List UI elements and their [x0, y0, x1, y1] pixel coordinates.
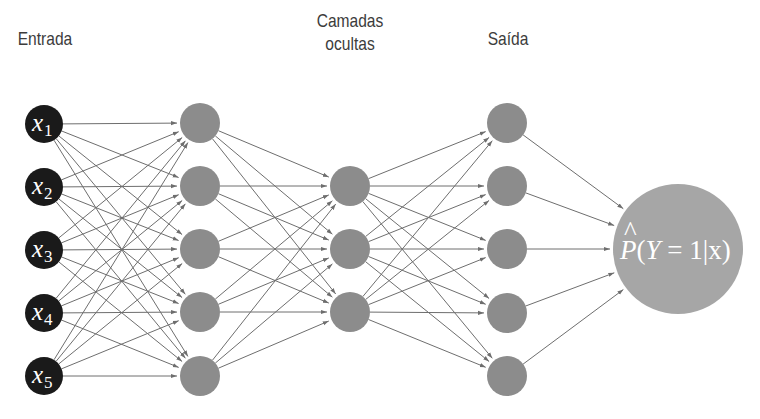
edge-hidden1-to-hidden2 [218, 131, 328, 177]
input-node-x5: x5 [25, 357, 63, 395]
edge-input-to-hidden1 [63, 186, 177, 187]
output-node-3 [487, 229, 527, 269]
edge-hidden2-to-output [369, 132, 486, 179]
input-node-x4: x4 [25, 294, 63, 332]
neural-network-diagram: x1x2x3x4x5^P(Y = 1|x) [0, 0, 760, 419]
edge-hidden2-to-output [363, 141, 493, 297]
output-node-1 [487, 103, 527, 143]
edge-hidden2-to-output [369, 320, 486, 368]
edge-hidden1-to-hidden2 [212, 204, 335, 360]
output-node-5 [487, 356, 527, 396]
edge-input-to-hidden1 [63, 312, 177, 313]
hidden2-node-1 [330, 166, 370, 206]
hidden1-node-2 [180, 166, 220, 206]
hidden2-node-2 [330, 229, 370, 269]
edge-hidden2-to-output [370, 312, 484, 313]
edge-output-to-probability [526, 193, 614, 226]
edge-input-to-hidden1 [56, 204, 185, 361]
input-node-x3: x3 [25, 231, 63, 269]
edge-hidden1-to-hidden2 [215, 136, 332, 234]
hidden1-node-5 [180, 356, 220, 396]
output-node-2 [487, 166, 527, 206]
input-node-x2: x2 [25, 168, 63, 206]
edge-hidden1-to-hidden2 [215, 264, 332, 363]
edge-input-to-hidden1 [62, 320, 179, 367]
input-node-x1: x1 [25, 105, 63, 143]
edge-input-to-hidden1 [59, 138, 183, 239]
probability-formula: P(Y = 1|x) [619, 235, 731, 265]
probability-output-node: ^P(Y = 1|x) [613, 184, 743, 314]
edge-hidden1-to-hidden2 [212, 139, 335, 294]
edge-input-to-hidden1 [62, 258, 179, 306]
hidden2-node-3 [330, 292, 370, 332]
edge-input-to-hidden1 [56, 139, 185, 295]
edge-output-to-probability [523, 290, 623, 365]
edge-input-to-hidden1 [56, 141, 185, 298]
hidden1-node-4 [180, 292, 220, 332]
hidden1-node-1 [180, 103, 220, 143]
edge-hidden1-to-hidden2 [218, 321, 328, 368]
edge-input-to-hidden1 [62, 132, 179, 180]
edge-hidden2-to-output [366, 200, 490, 299]
edge-input-to-hidden1 [63, 249, 177, 250]
edge-hidden2-to-output [363, 201, 493, 358]
edge-hidden2-to-output [366, 137, 490, 236]
edge-hidden2-to-output [366, 262, 490, 362]
hidden1-node-3 [180, 229, 220, 269]
edge-output-to-probability [526, 273, 615, 306]
edge-hidden2-to-output [369, 195, 486, 242]
edge-input-to-hidden1 [62, 195, 179, 243]
edge-input-to-hidden1 [59, 264, 183, 365]
output-node-4 [487, 293, 527, 333]
edge-input-to-hidden1 [63, 123, 177, 124]
